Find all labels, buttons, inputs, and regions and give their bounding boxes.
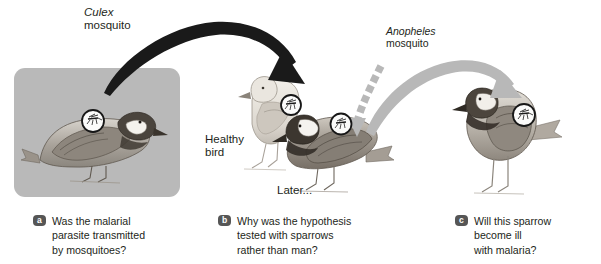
figure-canvas: Culex mosquito Anopheles mosquito Health… [0, 0, 601, 264]
caption-b-badge: b [218, 215, 231, 226]
magnifier-panel-b-healthy [281, 95, 301, 115]
culex-common: mosquito [84, 19, 131, 32]
caption-b-text: Why was the hypothesis tested with sparr… [237, 214, 403, 257]
anopheles-common: mosquito [386, 38, 436, 50]
culex-arrow-label: Culex mosquito [84, 6, 131, 32]
panel-c-sparrow [452, 88, 562, 194]
anopheles-arrow-label: Anopheles mosquito [386, 26, 436, 50]
caption-a-text: Was the malarial parasite transmitted by… [52, 214, 198, 257]
caption-a-badge: a [33, 215, 46, 226]
caption-b: b Why was the hypothesis tested with spa… [218, 214, 403, 257]
culex-genus: Culex [84, 6, 131, 19]
caption-c-badge: c [455, 215, 468, 226]
magnifier-panel-a [82, 110, 104, 132]
caption-a: a Was the malarial parasite transmitted … [33, 214, 198, 257]
magnifier-panel-b-infected [331, 114, 352, 135]
caption-c: c Will this sparrow become ill with mala… [455, 214, 595, 257]
healthy-bird-label: Healthy bird [205, 133, 244, 159]
later-label: Later... [277, 184, 312, 197]
caption-c-text: Will this sparrow become ill with malari… [474, 214, 595, 257]
magnifier-panel-c [513, 104, 535, 126]
anopheles-genus: Anopheles [386, 26, 436, 38]
